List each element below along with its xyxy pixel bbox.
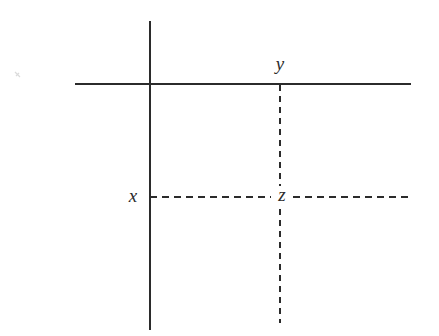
diagram-canvas: y x z — [0, 0, 439, 336]
label-y: y — [274, 53, 285, 74]
diagram-svg: y x z — [0, 0, 439, 336]
label-x: x — [128, 185, 138, 206]
diagram-background — [0, 0, 439, 336]
label-z: z — [277, 184, 286, 205]
